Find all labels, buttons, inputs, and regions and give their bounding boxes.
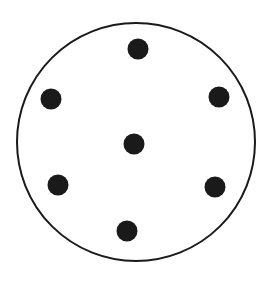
dot-upper-right [209,87,230,108]
dot-upper-left [41,89,62,110]
dots-group [41,39,230,242]
dot-lower-left [48,175,69,196]
dot-top [128,39,149,60]
dot-center [124,134,145,155]
dots-circle-diagram [0,0,270,286]
dot-lower-right [205,177,226,198]
dot-bottom [117,221,138,242]
